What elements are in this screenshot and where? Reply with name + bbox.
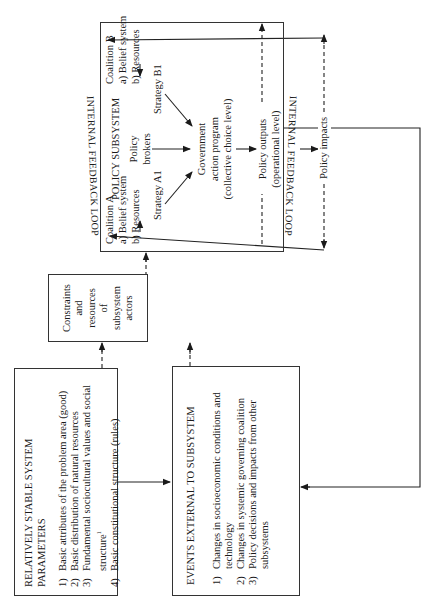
list-item: 1)Changes in socioeconomic conditions an… (211, 375, 235, 585)
list-item: 4)Basic constitutional structure (rules) (109, 373, 121, 587)
footnote-marker: 1 (96, 531, 102, 534)
strategy-a1: Strategy A1 (152, 170, 165, 220)
coalition-b-resources: b) Resources (130, 29, 143, 84)
stable-params-list: 1)Basic attributes of the problem area (… (57, 373, 121, 587)
coalition-a-title: Coalition A (104, 195, 117, 244)
policy-outputs-line2: (operational level) (270, 104, 283, 194)
policy-brokers-line2: brokers (141, 124, 154, 174)
government-program-line1: Government (196, 89, 209, 209)
constraints-line: of (98, 304, 111, 313)
constraints-line: resources (86, 288, 99, 328)
list-item: 2)Changes in systemic governing coalitio… (235, 375, 247, 585)
constraints-line: and (73, 300, 86, 315)
external-events-list: 1)Changes in socioeconomic conditions an… (211, 375, 271, 585)
line-subsystem-to-events (283, 128, 420, 487)
constraints-line: Constraints (61, 284, 74, 332)
constraints-box: Constraints and resources of subsystem a… (48, 274, 148, 342)
stable-params-title-line2: PARAMETERS (36, 519, 49, 587)
coalition-b-belief: a) Belief system (117, 16, 130, 84)
coalition-a-belief: a) Belief system (117, 176, 130, 244)
coalition-a-resources: b) Resources (130, 189, 143, 244)
acf-diagram: RELATIVELY STABLE SYSTEM PARAMETERS 1)Ba… (0, 0, 434, 604)
strategy-b1: Strategy B1 (152, 64, 165, 114)
list-item: 3)Policy decisions and impacts from othe… (247, 375, 271, 585)
constraints-line: subsystem (111, 286, 124, 330)
list-item: 1)Basic attributes of the problem area (… (57, 373, 69, 587)
policy-brokers-line1: Policy (128, 124, 141, 174)
constraints-line: actors (123, 295, 136, 320)
stable-parameters-box: RELATIVELY STABLE SYSTEM PARAMETERS 1)Ba… (14, 368, 118, 596)
policy-outputs-line1: Policy outputs (257, 104, 270, 194)
coalition-b-title: Coalition B (104, 35, 117, 84)
list-item: 3)Fundamental sociocultural values and s… (81, 373, 109, 587)
government-program-line2: action program (209, 89, 222, 209)
list-item: 2)Basic distribution of natural resource… (69, 373, 81, 587)
stable-params-title-line1: RELATIVELY STABLE SYSTEM (23, 439, 36, 587)
government-program-line3: (collective choice level) (222, 89, 235, 209)
policy-impacts: Policy impacts (318, 112, 331, 184)
external-events-box: EVENTS EXTERNAL TO SUBSYSTEM 1)Changes i… (172, 366, 300, 596)
external-events-title: EVENTS EXTERNAL TO SUBSYSTEM (185, 406, 198, 585)
